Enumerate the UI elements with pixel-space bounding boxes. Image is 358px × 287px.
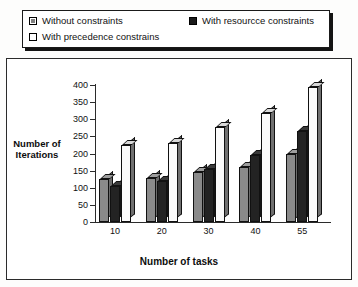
x-axis-title: Number of tasks (0, 256, 358, 267)
bar-face (121, 145, 131, 222)
y-axis-tick-label: 0 (64, 218, 88, 227)
bar-10-series-1 (99, 179, 109, 222)
legend-label-resource-constraints: With resourcce constraints (202, 15, 314, 26)
bar-face (261, 113, 271, 222)
bar-group (99, 84, 146, 222)
bar-20-series-2 (157, 181, 167, 222)
y-axis-tick-label: 50 (64, 201, 88, 210)
bar-10-series-2 (110, 186, 120, 222)
y-axis-tick-label: 300 (64, 115, 88, 124)
y-axis-tick-mark (90, 85, 95, 86)
x-axis-tick-label: 40 (240, 226, 270, 236)
bar-20-series-1 (146, 178, 156, 222)
legend-label-precedence-constraints: With precedence constrains (42, 31, 159, 42)
bar-group (239, 84, 286, 222)
bar-face (215, 127, 225, 222)
y-axis-tick-label: 400 (64, 81, 88, 90)
bar-group (193, 84, 240, 222)
bar-55-series-3 (308, 87, 318, 222)
y-axis-tick-mark (90, 136, 95, 137)
bar-face (99, 179, 109, 222)
y-axis-tick-label: 100 (64, 184, 88, 193)
x-axis-tick-label: 20 (147, 226, 177, 236)
bar-20-series-3 (168, 143, 178, 222)
bar-10-series-3 (121, 145, 131, 222)
y-axis-title: Number ofIterations (8, 138, 66, 160)
y-axis-tick-mark (90, 222, 95, 223)
y-axis-tick-label: 250 (64, 132, 88, 141)
bar-top (100, 174, 116, 179)
legend-item-resource-constraints: With resourcce constraints (189, 15, 314, 26)
bar-30-series-1 (193, 172, 203, 222)
y-axis-tick-mark (90, 154, 95, 155)
white-square-icon (29, 33, 37, 41)
y-axis-tick-label: 150 (64, 167, 88, 176)
bar-face (157, 181, 167, 222)
bar-55-series-2 (297, 131, 307, 222)
bar-30-series-2 (204, 169, 214, 222)
bar-top (122, 140, 138, 145)
bar-group (286, 84, 333, 222)
y-axis-tick-label: 350 (64, 98, 88, 107)
bar-face (110, 186, 120, 222)
bar-face (308, 87, 318, 222)
plot-area (96, 84, 330, 222)
bar-face (286, 154, 296, 223)
gray-square-icon (29, 17, 37, 25)
bar-40-series-2 (250, 155, 260, 222)
bar-face (250, 155, 260, 222)
y-axis-tick-mark (90, 102, 95, 103)
bar-top (262, 108, 278, 113)
x-axis-tick-label: 55 (287, 226, 317, 236)
y-axis-title-line-2: Iterations (8, 149, 66, 160)
bar-55-series-1 (286, 154, 296, 223)
black-square-icon (189, 17, 197, 25)
bar-40-series-1 (239, 167, 249, 222)
y-axis-tick-mark (90, 119, 95, 120)
bar-face (168, 143, 178, 222)
bar-group (146, 84, 193, 222)
bar-30-series-3 (215, 127, 225, 222)
y-axis-tick-label: 200 (64, 150, 88, 159)
y-axis-tick-mark (90, 171, 95, 172)
bar-face (193, 172, 203, 222)
x-axis-tick-label: 30 (194, 226, 224, 236)
bar-face (204, 169, 214, 222)
bar-top (169, 138, 185, 143)
bar-face (146, 178, 156, 222)
bar-40-series-3 (261, 113, 271, 222)
y-axis-tick-mark (90, 205, 95, 206)
x-axis-tick-label: 10 (100, 226, 130, 236)
bar-face (297, 131, 307, 222)
y-axis-title-line-1: Number of (8, 138, 66, 149)
legend-item-precedence-constraints: With precedence constrains (29, 31, 159, 42)
x-axis-line (95, 222, 331, 223)
y-axis-tick-mark (90, 188, 95, 189)
bar-face (239, 167, 249, 222)
